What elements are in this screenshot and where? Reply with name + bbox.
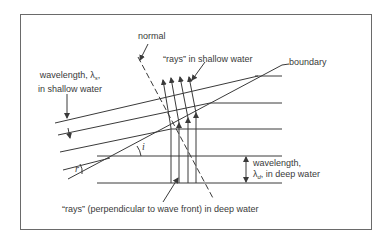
wavelength-deep-label: wavelength, λd, in deep water — [253, 158, 320, 183]
angle-r-label: r — [75, 163, 79, 174]
ray-shallow-1 — [163, 80, 171, 128]
angle-i-arc — [137, 146, 141, 156]
rays-shallow-label: “rays” in shallow water — [163, 54, 253, 65]
ray-shallow-2 — [171, 78, 179, 123]
boundary-label: boundary — [289, 57, 327, 68]
wavefront-shallow-4 — [63, 158, 110, 170]
rays-deep-label: “rays” (perpendicular to wave front) in … — [62, 204, 259, 215]
normal-label: normal — [138, 31, 166, 42]
wavelength-deep-rest: , in deep water — [261, 169, 320, 179]
wavelength-shallow-comma: , — [98, 70, 101, 80]
wavefront-shallow-3 — [60, 129, 171, 152]
wavelength-deep-text: wavelength, — [253, 158, 301, 168]
wavelength-shallow-text: wavelength, λ — [40, 70, 95, 80]
ray-shallow-3 — [180, 77, 188, 118]
wavelength-shallow-text-2: in shallow water — [38, 84, 102, 94]
wavelength-shallow-label: wavelength, λs, in shallow water — [35, 70, 105, 95]
angle-i-label: i — [142, 141, 145, 152]
wavefront-shallow-2 — [58, 103, 210, 135]
boundary-leader — [282, 64, 289, 65]
normal-leader-arrow — [140, 44, 148, 60]
